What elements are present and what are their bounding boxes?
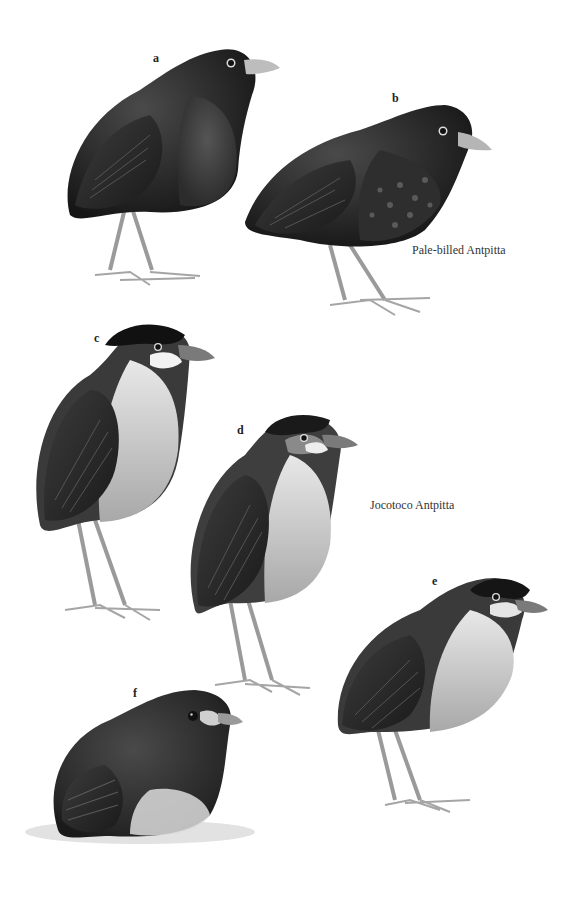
bird-e — [338, 578, 548, 812]
caption-pale-billed-antpitta: Pale-billed Antpitta — [412, 244, 506, 256]
figure-label-b: b — [392, 92, 399, 104]
bird-c — [36, 325, 215, 620]
bird-d — [191, 415, 358, 695]
illustration-plate: a b c d e f Pale-billed Antpitta Jocotoc… — [0, 0, 581, 899]
figure-label-e: e — [432, 575, 437, 587]
bird-a — [68, 49, 280, 285]
figure-label-a: a — [153, 52, 159, 64]
bird-b — [245, 105, 492, 315]
bird-f — [25, 690, 255, 844]
figure-label-f: f — [133, 687, 137, 699]
figure-label-d: d — [237, 424, 244, 436]
figure-label-c: c — [94, 332, 99, 344]
caption-jocotoco-antpitta: Jocotoco Antpitta — [370, 499, 454, 511]
birds-illustration — [0, 0, 581, 899]
